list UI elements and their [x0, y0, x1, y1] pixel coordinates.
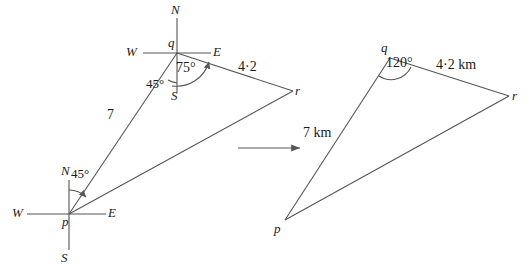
- left-angle-arc-p-45: [69, 190, 86, 197]
- compass-p-west-label: W: [12, 206, 23, 219]
- left-angle-label-q-75: 75°: [176, 61, 196, 75]
- left-vertex-label-p: p: [62, 215, 69, 228]
- compass-p-south-label: S: [61, 251, 68, 264]
- left-vertex-label-q: q: [168, 36, 175, 49]
- compass-q-north-label: N: [171, 3, 180, 16]
- left-angle-label-p-45: 45°: [71, 167, 89, 180]
- compass-q-south-label: S: [171, 89, 178, 102]
- right-vertex-label-r: r: [512, 89, 517, 102]
- compass-p-east-label: E: [108, 206, 116, 219]
- figure-linework: [0, 0, 531, 277]
- left-side-pr: [69, 91, 293, 214]
- left-side-label-pq: 7: [107, 108, 114, 122]
- compass-p-north-label: N: [61, 164, 70, 177]
- right-side-label-pq: 7 km: [303, 126, 331, 140]
- left-angle-arc-q-45: [168, 80, 177, 83]
- right-vertex-label-q: q: [381, 41, 388, 54]
- bearings-figure: N S E W q r p N S E W 45° 45° 75° 7 4·2 …: [0, 0, 531, 277]
- right-vertex-label-p: p: [274, 222, 281, 235]
- left-vertex-label-r: r: [295, 84, 300, 97]
- right-side-label-qr: 4·2 km: [436, 58, 476, 72]
- left-side-label-qr: 4·2: [238, 60, 257, 74]
- right-angle-label-q-120: 120°: [386, 56, 413, 70]
- compass-q-east-label: E: [213, 45, 221, 58]
- right-side-pr: [285, 96, 509, 220]
- compass-q-west-label: W: [126, 45, 137, 58]
- right-side-pq: [285, 58, 390, 220]
- left-angle-label-q-45: 45°: [146, 77, 164, 90]
